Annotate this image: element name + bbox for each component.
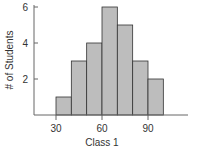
y-axis-label: # of Students (4, 31, 15, 90)
histogram-bar (87, 43, 102, 115)
histogram-bar (56, 97, 71, 115)
x-tick-label: 30 (50, 123, 62, 134)
histogram-bar (117, 25, 132, 115)
histogram-chart: 246 306090 # of Students Class 1 (0, 0, 199, 155)
histogram-bar (148, 79, 163, 115)
histogram-bar (71, 61, 86, 115)
histogram-bar (102, 7, 117, 115)
x-tick-label: 90 (142, 123, 154, 134)
y-tick-label: 6 (22, 2, 28, 13)
x-ticks: 306090 (50, 115, 154, 134)
x-tick-label: 60 (96, 123, 108, 134)
x-axis-label: Class 1 (85, 137, 119, 148)
bars-group (56, 7, 163, 115)
y-ticks: 246 (22, 2, 38, 85)
y-tick-label: 2 (22, 74, 28, 85)
y-tick-label: 4 (22, 38, 28, 49)
histogram-bar (133, 61, 148, 115)
